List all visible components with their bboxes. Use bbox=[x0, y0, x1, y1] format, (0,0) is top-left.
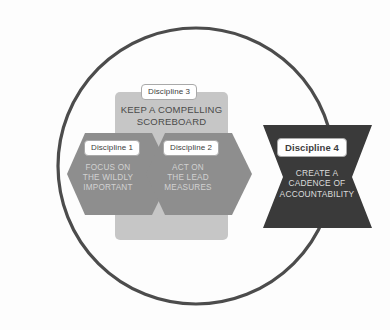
discipline-4-label[interactable]: Discipline 4 bbox=[277, 138, 347, 157]
discipline-1-label[interactable]: Discipline 1 bbox=[84, 140, 140, 156]
discipline-3-body: KEEP A COMPELLING SCOREBOARD bbox=[113, 104, 230, 127]
diagram-canvas: Discipline 3 KEEP A COMPELLING SCOREBOAR… bbox=[0, 0, 390, 330]
discipline-2-label[interactable]: Discipline 2 bbox=[163, 140, 219, 156]
discipline-1-body: FOCUS ON THE WILDLY IMPORTANT bbox=[75, 163, 141, 193]
discipline-2-body: ACT ON THE LEAD MEASURES bbox=[155, 163, 221, 193]
discipline-3-label[interactable]: Discipline 3 bbox=[141, 84, 197, 100]
discipline-4-body: CREATE A CADENCE OF ACCOUNTABILITY bbox=[267, 168, 367, 199]
